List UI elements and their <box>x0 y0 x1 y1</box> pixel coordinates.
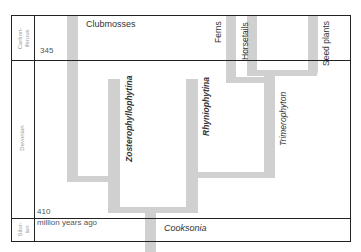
branch-horsetails-join <box>247 70 317 76</box>
period-devonian: Devonian <box>19 118 27 158</box>
branch-seed-plants <box>308 15 318 76</box>
branch-trimerophyton <box>264 72 275 178</box>
age-345: 345 <box>40 46 53 55</box>
label-trimerophyton: Trimerophyton <box>278 92 288 146</box>
branch-rhynio-join <box>186 172 275 178</box>
branch-rhyniophytina <box>186 79 198 213</box>
period-silurian: Silur- ian <box>17 210 30 250</box>
label-ferns: Ferns <box>213 21 223 43</box>
branch-ferns <box>226 15 236 83</box>
label-seed-plants: Seed plants <box>321 21 331 66</box>
frame-left <box>11 15 12 242</box>
label-zosterophyllophytina: Zosterophyllophytina <box>124 76 134 162</box>
branch-clubmosses <box>67 15 78 182</box>
period-divider <box>34 15 35 242</box>
branch-zosterophyllophytina <box>108 79 120 213</box>
frame-top <box>11 15 351 16</box>
label-rhyniophytina: Rhyniophytina <box>201 77 211 136</box>
frame-right <box>350 15 351 242</box>
label-cooksonia: Cooksonia <box>164 223 207 233</box>
period-carboniferous: Carbon- iferous <box>17 19 30 59</box>
branch-ferns-join <box>226 77 268 83</box>
boundary-345 <box>11 60 351 61</box>
age-unit: million years ago <box>37 218 97 227</box>
branch-cooksonia <box>145 207 156 252</box>
evolution-diagram: Carbon- iferous Devonian Silur- ian 345 … <box>0 0 361 252</box>
label-clubmosses: Clubmosses <box>86 19 136 29</box>
age-410: 410 <box>37 207 50 216</box>
frame-bottom <box>11 241 351 242</box>
label-horsetails: Horsetails <box>240 22 250 60</box>
